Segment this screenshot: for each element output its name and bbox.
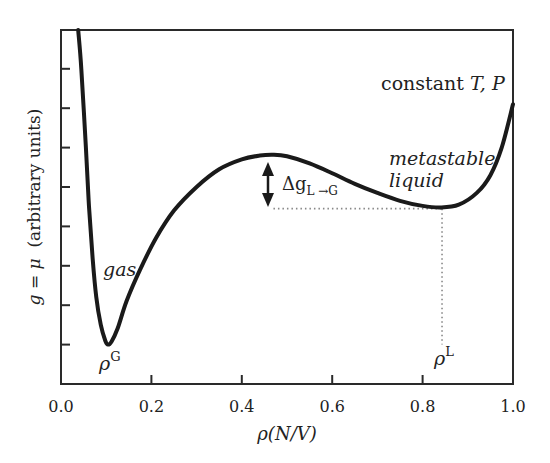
chart-canvas: 0.00.20.40.60.81.0 constant T, P metasta… bbox=[0, 0, 550, 463]
x-axis-ticks: 0.00.20.40.60.81.0 bbox=[48, 375, 525, 416]
y-axis-label: g = μ (arbitrary units) bbox=[24, 109, 44, 306]
double-arrow-icon bbox=[262, 162, 274, 207]
x-tick-label: 0.6 bbox=[319, 397, 344, 416]
annotation-delta-g: ΔgL →G bbox=[282, 173, 338, 198]
annotation-metastable: metastable bbox=[389, 147, 495, 169]
annotation-rho-l: ρL bbox=[433, 344, 454, 369]
annotation-gas: gas bbox=[103, 258, 136, 280]
annotation-rho-g: ρG bbox=[98, 349, 121, 374]
x-tick-label: 0.4 bbox=[229, 397, 254, 416]
x-tick-label: 0.8 bbox=[410, 397, 435, 416]
y-axis-ticks bbox=[61, 69, 70, 345]
annotation-liquid: liquid bbox=[389, 169, 444, 191]
x-axis-label: ρ(N/V) bbox=[256, 423, 316, 444]
x-tick-label: 0.0 bbox=[48, 397, 73, 416]
chart-figure: 0.00.20.40.60.81.0 constant T, P metasta… bbox=[0, 0, 550, 463]
x-tick-label: 0.2 bbox=[139, 397, 164, 416]
annotation-constant-tp: constant T, P bbox=[381, 72, 506, 94]
x-tick-label: 1.0 bbox=[500, 397, 525, 416]
